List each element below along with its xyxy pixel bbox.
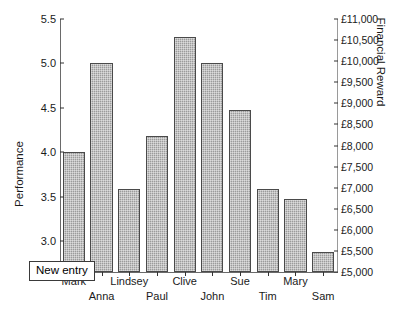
left-axis-tick-mark: [60, 196, 64, 197]
right-axis-tick-label: £10,000: [341, 55, 379, 67]
left-axis-tick-mark: [60, 152, 64, 153]
x-axis-tick-label-tim: Tim: [259, 290, 277, 302]
right-axis-tick-mark: [334, 272, 338, 273]
left-axis-tick-mark: [60, 63, 64, 64]
x-axis-tick-mark: [212, 272, 213, 276]
right-axis-tick-label: £10,500: [341, 34, 379, 46]
left-axis-title: Performance: [13, 119, 25, 229]
x-axis-tick-mark: [323, 272, 324, 276]
x-axis-tick-label-anna: Anna: [89, 290, 115, 302]
left-axis-tick-label: 3.5: [41, 191, 56, 203]
bar-sue[interactable]: [229, 110, 251, 272]
right-axis-tick-mark: [334, 229, 338, 230]
x-axis-tick-mark: [157, 272, 158, 276]
bar-mary[interactable]: [284, 199, 306, 272]
bar-john[interactable]: [201, 63, 223, 272]
bar-paul[interactable]: [146, 136, 168, 272]
x-axis-tick-label-clive: Clive: [172, 275, 196, 287]
bar-mark[interactable]: [63, 152, 85, 272]
left-axis-tick-label: 5.0: [41, 57, 56, 69]
left-axis-tick-mark: [60, 19, 64, 20]
right-axis-tick-mark: [334, 166, 338, 167]
bar-chart: 3.03.54.04.55.05.5 £5,000£5,500£6,000£6,…: [0, 0, 396, 324]
x-axis-tick-label-sam: Sam: [312, 290, 335, 302]
left-axis-tick-label: 4.0: [41, 146, 56, 158]
left-axis-tick-label: 3.0: [41, 235, 56, 247]
right-axis-tick-mark: [334, 103, 338, 104]
bar-sam[interactable]: [312, 252, 334, 272]
right-axis-tick-label: £8,000: [341, 140, 373, 152]
x-axis-tick-label-john: John: [200, 290, 224, 302]
plot-area: [60, 19, 338, 272]
x-axis-tick-label-mary: Mary: [283, 275, 307, 287]
bar-clive[interactable]: [174, 37, 196, 272]
right-axis-tick-label: £6,500: [341, 203, 373, 215]
right-axis-tick-mark: [334, 61, 338, 62]
right-axis-tick-mark: [334, 40, 338, 41]
left-axis-tick-label: 4.5: [41, 102, 56, 114]
right-axis-tick-label: £9,500: [341, 76, 373, 88]
right-axis-tick-label: £9,000: [341, 97, 373, 109]
left-axis-tick-mark: [60, 240, 64, 241]
x-axis-tick-label-sue: Sue: [230, 275, 250, 287]
right-axis-tick-label: £11,000: [341, 13, 378, 25]
right-axis-tick-mark: [334, 145, 338, 146]
right-axis-tick-label: £8,500: [341, 118, 373, 130]
right-axis-title: Financial Reward: [375, 0, 387, 127]
right-axis-tick-label: £5,500: [341, 245, 373, 257]
bar-lindsey[interactable]: [118, 189, 140, 272]
bar-anna[interactable]: [90, 63, 112, 272]
right-axis-tick-label: £5,000: [341, 266, 373, 278]
left-axis-tick-mark: [60, 107, 64, 108]
x-axis-tick-mark: [102, 272, 103, 276]
right-axis-tick-mark: [334, 250, 338, 251]
right-axis-tick-mark: [334, 82, 338, 83]
right-axis-tick-mark: [334, 187, 338, 188]
new-entry-annotation[interactable]: New entry: [29, 261, 95, 281]
bar-tim[interactable]: [257, 189, 279, 272]
x-axis-tick-mark: [268, 272, 269, 276]
right-axis-tick-mark: [334, 208, 338, 209]
right-axis-tick-label: £7,500: [341, 161, 373, 173]
right-axis-tick-mark: [334, 19, 338, 20]
right-axis-tick-label: £6,000: [341, 224, 373, 236]
right-axis-tick-mark: [334, 124, 338, 125]
right-axis-tick-label: £7,000: [341, 182, 373, 194]
x-axis-tick-label-lindsey: Lindsey: [110, 275, 148, 287]
x-axis-tick-label-paul: Paul: [146, 290, 168, 302]
left-axis-tick-label: 5.5: [41, 13, 56, 25]
